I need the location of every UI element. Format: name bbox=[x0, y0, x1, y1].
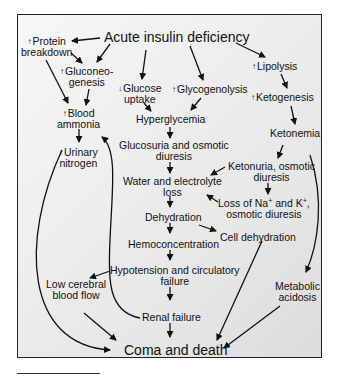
node-label: Ketogenesis bbox=[256, 91, 314, 103]
node-label: nitrogen bbox=[59, 157, 97, 169]
increase-arrow-icon: ↑ bbox=[252, 62, 256, 71]
node-blood-ammonia: ↑Blood ammonia bbox=[57, 108, 100, 130]
node-label: loss bbox=[163, 186, 182, 198]
node-coma-and-death: Coma and death bbox=[124, 343, 228, 358]
node-label: genesis bbox=[69, 76, 105, 88]
node-label: Hemoconcentration bbox=[128, 238, 219, 250]
increase-arrow-icon: ↑ bbox=[60, 67, 64, 76]
node-label: Hyperglycemia bbox=[136, 113, 205, 125]
node-label: osmotic diuresis bbox=[226, 208, 301, 220]
node-label: breakdown bbox=[21, 46, 72, 58]
node-hemoconcentration: Hemoconcentration bbox=[128, 239, 219, 250]
node-label: blood flow bbox=[52, 289, 99, 301]
node-loss-na-k: Loss of Na+ and K+, osmotic diuresis bbox=[218, 198, 310, 220]
node-label: failure bbox=[160, 275, 189, 287]
node-label: Coma and death bbox=[124, 342, 228, 358]
node-label: Acute insulin deficiency bbox=[104, 29, 250, 45]
node-label: diuresis bbox=[253, 171, 289, 183]
node-ketonemia: Ketonemia bbox=[270, 128, 320, 139]
increase-arrow-icon: ↑ bbox=[59, 148, 63, 157]
node-label: Dehydration bbox=[145, 211, 202, 223]
node-acute-insulin-deficiency: Acute insulin deficiency bbox=[104, 30, 250, 45]
node-urinary-nitrogen: ↑Urinary nitrogen bbox=[59, 147, 98, 169]
node-label: ammonia bbox=[57, 118, 100, 130]
node-gluconeogenesis: ↑Gluconeo- genesis bbox=[60, 66, 113, 88]
node-label: Lipolysis bbox=[257, 60, 297, 72]
node-label: Glycogenolysis bbox=[177, 83, 248, 95]
node-cell-dehydration: Cell dehydration bbox=[220, 232, 296, 243]
increase-arrow-icon: ↑ bbox=[63, 109, 67, 118]
node-hyperglycemia: Hyperglycemia bbox=[136, 114, 205, 125]
node-label: Cell dehydration bbox=[220, 231, 296, 243]
node-label: uptake bbox=[124, 93, 156, 105]
node-low-cerebral-blood-flow: Low cerebral blood flow bbox=[46, 279, 106, 301]
node-label: Ketonemia bbox=[270, 127, 320, 139]
node-protein-breakdown: ↑Protein breakdown bbox=[21, 36, 72, 58]
node-glucosuria: Glucosuria and osmotic diuresis bbox=[119, 140, 229, 162]
node-metabolic-acidosis: Metabolic acidosis bbox=[275, 281, 320, 303]
node-ketonuria: Ketonuria, osmotic diuresis bbox=[228, 161, 315, 183]
increase-arrow-icon: ↑ bbox=[251, 93, 255, 102]
node-label: diuresis bbox=[156, 150, 192, 162]
node-water-electrolyte-loss: Water and electrolyte loss bbox=[123, 176, 222, 198]
node-ketogenesis: ↑Ketogenesis bbox=[251, 92, 314, 103]
node-glycogenolysis: ↑Glycogenolysis bbox=[172, 84, 248, 95]
node-glucose-uptake: ↓Glucose uptake bbox=[118, 83, 162, 105]
decrease-arrow-icon: ↓ bbox=[118, 84, 122, 93]
node-label: , bbox=[307, 197, 310, 209]
node-label: Renal failure bbox=[142, 311, 201, 323]
node-dehydration: Dehydration bbox=[145, 212, 202, 223]
node-lipolysis: ↑Lipolysis bbox=[252, 61, 297, 72]
node-renal-failure: Renal failure bbox=[142, 312, 201, 323]
node-label: acidosis bbox=[279, 291, 317, 303]
increase-arrow-icon: ↑ bbox=[28, 37, 32, 46]
increase-arrow-icon: ↑ bbox=[172, 85, 176, 94]
node-hypotension: Hypotension and circulatory failure bbox=[110, 265, 240, 287]
